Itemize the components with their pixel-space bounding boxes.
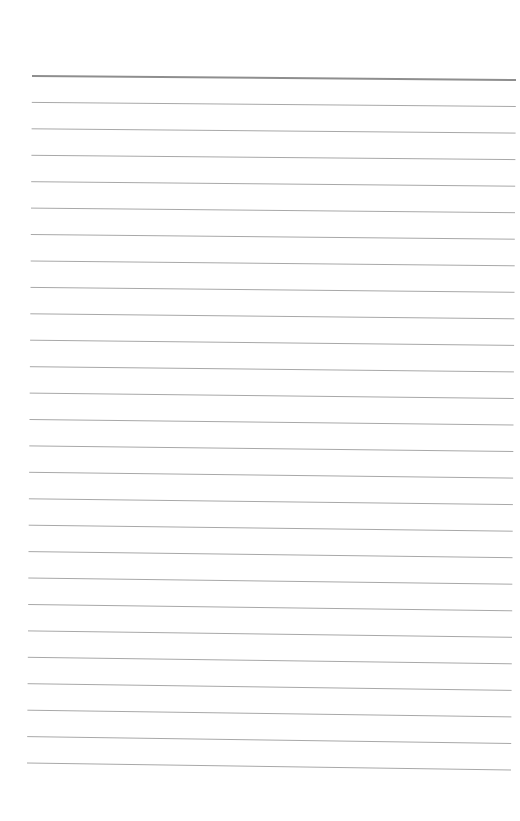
rule-line	[28, 684, 512, 691]
rule-line	[30, 393, 514, 398]
rule-line	[31, 261, 515, 266]
header-rule-line	[32, 76, 516, 80]
ruled-lines	[0, 0, 520, 821]
rule-line	[31, 155, 515, 159]
rule-line	[29, 472, 513, 478]
rule-line	[27, 763, 511, 770]
rule-line	[29, 499, 513, 505]
rule-line	[28, 631, 512, 637]
rule-line	[27, 737, 511, 744]
rule-line	[31, 182, 515, 187]
rule-line	[28, 578, 512, 584]
rule-line	[30, 314, 514, 319]
rule-line	[27, 710, 511, 717]
rule-line	[30, 340, 514, 345]
rule-line	[32, 129, 516, 133]
ruled-page	[0, 0, 520, 821]
rule-line	[31, 208, 515, 213]
rule-line	[29, 552, 513, 558]
rule-line	[32, 102, 516, 106]
rule-line	[31, 235, 515, 240]
rule-line	[28, 605, 512, 611]
rule-line	[28, 657, 512, 664]
rule-line	[30, 367, 514, 372]
rule-line	[30, 420, 514, 426]
rule-line	[29, 446, 513, 452]
rule-line	[29, 525, 513, 531]
rule-line	[31, 287, 515, 292]
